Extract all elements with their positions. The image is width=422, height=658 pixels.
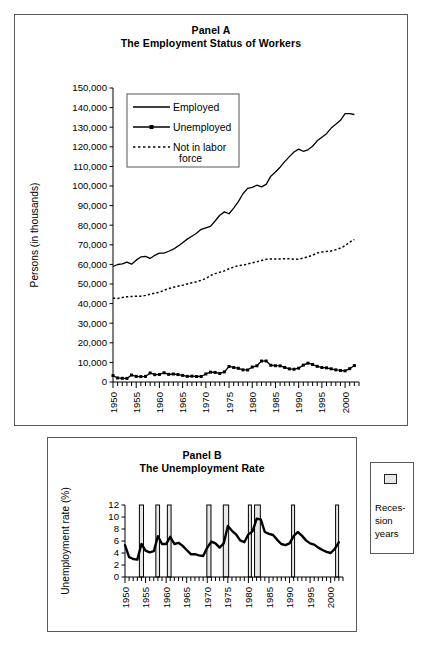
panel-b-y-tick-label: 4 [114, 547, 120, 558]
panel-a-unemployed-marker [320, 366, 323, 369]
panel-a-unemployed-marker [288, 367, 291, 370]
panel-a-legend-label: force [179, 153, 202, 164]
panel-a-legend-label: Employed [173, 102, 219, 113]
panel-a-unemployed-marker [163, 371, 166, 374]
panel-a-unemployed-marker [186, 375, 189, 378]
panel-b-recession-band [139, 505, 143, 577]
panel-a-unemployed-marker [279, 364, 282, 367]
panel-b-x-tick-label: 1960 [161, 587, 172, 608]
panel-a-unemployed-marker [255, 364, 258, 367]
panel-a-unemployed-marker [316, 365, 319, 368]
panel-a-unemployed-marker [251, 366, 254, 369]
panel-a-y-tick-label: 70,000 [78, 239, 107, 250]
panel-a-y-tick-label: 20,000 [78, 337, 107, 348]
panel-a-unemployed-marker [130, 374, 133, 377]
panel-a-unemployed-marker [181, 374, 184, 377]
panel-b-x-tick-label: 1950 [120, 587, 131, 608]
panel-b-x-tick-label: 1995 [305, 587, 316, 608]
panel-a-y-tick-label: 110,000 [73, 161, 107, 172]
panel-b-y-tick-label: 12 [108, 499, 119, 510]
panel-a-unemployed-marker [237, 367, 240, 370]
recession-legend-line1: Reces- [375, 501, 415, 514]
panel-a-unemployed-marker [330, 367, 333, 370]
panel-a-legend-label: Unemployed [173, 122, 232, 133]
panel-a-y-tick-label: 100,000 [72, 180, 107, 191]
panel-a-unemployed-marker [260, 360, 263, 363]
panel-a-series-not-in-labor-force [113, 240, 354, 299]
panel-a-unemployed-marker [353, 364, 356, 367]
panel-a-unemployed-marker [112, 374, 115, 377]
panel-b-x-tick-label: 1955 [140, 587, 151, 608]
panel-a-unemployed-marker [149, 371, 152, 374]
panel-a-unemployed-marker [228, 365, 231, 368]
panel-b-x-tick-label: 1965 [181, 587, 192, 608]
panel-a-unemployed-marker [293, 368, 296, 371]
panel-b-recession-band [255, 505, 261, 577]
panel-a-unemployed-marker [209, 371, 212, 374]
panel-a-y-tick-label: 80,000 [78, 220, 107, 231]
panel-a-unemployed-marker [297, 367, 300, 370]
panel-a-unemployed-marker [190, 375, 193, 378]
panel-a-unemployed-marker [232, 366, 235, 369]
panel-a-y-tick-label: 30,000 [78, 318, 107, 329]
panel-a-unemployed-marker [218, 372, 221, 375]
panel-a-unemployed-marker [348, 367, 351, 370]
panel-a-unemployed-marker [153, 373, 156, 376]
panel-a-unemployed-marker [158, 373, 161, 376]
panel-a-unemployed-marker [302, 364, 305, 367]
panel-a-series-unemployed [113, 361, 354, 378]
recession-legend-text: Reces- sion years [375, 501, 415, 540]
panel-a-unemployed-marker [139, 375, 142, 378]
panel-a-x-tick-label: 1975 [224, 392, 235, 413]
panel-a-unemployed-marker [116, 376, 119, 379]
panel-b-y-tick-label: 6 [114, 535, 119, 546]
panel-a-x-tick-label: 1960 [154, 392, 165, 413]
panel-b-y-tick-label: 0 [114, 571, 119, 582]
panel-b-y-tick-label: 10 [108, 511, 119, 522]
panel-a-unemployed-marker [135, 375, 138, 378]
recession-legend-line3: years [375, 527, 415, 540]
panel-b-x-tick-label: 1990 [284, 587, 295, 608]
panel-a-unemployed-marker [172, 373, 175, 376]
panel-a-x-tick-label: 1995 [316, 392, 327, 413]
panel-a-unemployed-marker [269, 364, 272, 367]
panel-a-x-tick-label: 1985 [270, 392, 281, 413]
panel-a-unemployed-marker [121, 377, 124, 380]
panel-b-x-tick-label: 1975 [222, 587, 233, 608]
panel-a-y-tick-label: 50,000 [78, 278, 107, 289]
panel-a-y-tick-label: 90,000 [78, 200, 107, 211]
panel-a-unemployed-marker [204, 372, 207, 375]
panel-a-y-tick-label: 140,000 [72, 102, 107, 113]
panel-b-y-tick-label: 2 [114, 559, 119, 570]
panel-b-x-tick-label: 1970 [202, 587, 213, 608]
panel-a-legend-label: Not in labor [173, 142, 227, 153]
panel-a-chart: 010,00020,00030,00040,00050,00060,00070,… [14, 14, 408, 426]
panel-a-x-tick-label: 1980 [247, 392, 258, 413]
panel-a-unemployed-marker [334, 368, 337, 371]
panel-a-x-tick-label: 2000 [340, 392, 351, 413]
panel-a-y-tick-label: 10,000 [78, 357, 107, 368]
recession-legend-line2: sion [375, 514, 415, 527]
recession-swatch-icon [384, 474, 397, 484]
panel-a-unemployed-marker [241, 368, 244, 371]
panel-b-chart: 0246810121950195519601965197019751980198… [47, 437, 357, 632]
panel-b-recession-band [336, 505, 339, 577]
recession-legend: Reces- sion years [370, 462, 414, 554]
panel-a-y-tick-label: 0 [102, 376, 107, 387]
panel-a-unemployed-marker [195, 375, 198, 378]
panel-b-x-tick-label: 1980 [243, 587, 254, 608]
panel-a-unemployed-marker [325, 366, 328, 369]
panel-a-y-tick-label: 40,000 [78, 298, 107, 309]
panel-b-ylabel: Unemployment rate (%) [60, 487, 71, 595]
panel-a-unemployed-marker [274, 364, 277, 367]
panel-a-x-tick-label: 1965 [177, 392, 188, 413]
panel-a-unemployed-marker [125, 377, 128, 380]
panel-a-x-tick-label: 1955 [131, 392, 142, 413]
panel-a-unemployed-marker [214, 371, 217, 374]
panel-a-unemployed-marker [176, 373, 179, 376]
panel-a-ylabel: Persons (in thousands) [29, 183, 40, 288]
panel-b-y-tick-label: 8 [114, 523, 119, 534]
panel-a-y-tick-label: 150,000 [72, 82, 107, 93]
panel-a-unemployed-marker [311, 363, 314, 366]
panel-a-x-tick-label: 1970 [200, 392, 211, 413]
